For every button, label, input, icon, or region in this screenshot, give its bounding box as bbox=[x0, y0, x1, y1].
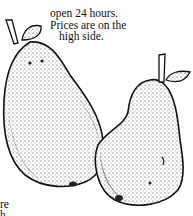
left-pear-stem bbox=[6, 20, 41, 44]
caption-line-3: high side. bbox=[50, 31, 126, 43]
caption-text: open 24 hours. Prices are on the high si… bbox=[50, 8, 126, 43]
right-pear bbox=[95, 80, 183, 206]
left-pear bbox=[4, 42, 104, 187]
cropped-text-fragment: re h bbox=[0, 199, 9, 216]
caption-line-1: open 24 hours. bbox=[50, 8, 126, 20]
right-pear-stem bbox=[159, 54, 190, 82]
fragment-line-2: h bbox=[0, 210, 9, 216]
